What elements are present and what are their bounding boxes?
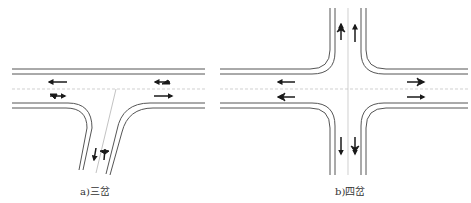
caption-four-way: b)四岔 — [335, 183, 365, 198]
three-way-intersection-drawing — [0, 0, 210, 203]
road-edge-bottom-right — [106, 103, 205, 175]
arrow-west-lower — [278, 93, 295, 101]
arrow-south-right — [100, 149, 109, 160]
arrow-east-upper — [155, 80, 170, 84]
centerline-south — [96, 89, 116, 173]
arrow-east-upper — [407, 78, 424, 86]
arrow-west-lower — [50, 94, 65, 99]
lane-arrows — [49, 80, 172, 160]
arrow-south-right — [351, 137, 359, 154]
arrow-north-left — [337, 24, 345, 40]
road-edge-bottom-right — [361, 103, 468, 175]
panel-three-way: a)三岔 — [0, 0, 210, 203]
road-edge-top — [12, 69, 205, 74]
four-way-intersection-drawing — [210, 0, 471, 203]
road-edge-bottom-left — [12, 103, 92, 170]
caption-three-way: a)三岔 — [80, 183, 110, 198]
arrow-south-left — [94, 148, 96, 160]
road-edge-top-right — [361, 8, 468, 74]
road-edge-bottom-left — [220, 103, 335, 175]
road-edge-top-left — [220, 8, 335, 74]
panel-four-way: b)四岔 — [210, 0, 471, 203]
